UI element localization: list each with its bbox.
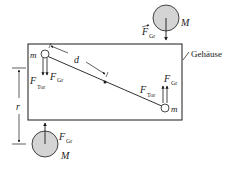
svg-text:F: F [163, 73, 171, 84]
small-mass-right-label: m [171, 104, 178, 114]
svg-text:Tor: Tor [37, 84, 45, 90]
distance-d-label: d [74, 54, 80, 65]
svg-text:F: F [29, 75, 37, 86]
force-tor-left-label: F Tor [29, 75, 45, 90]
svg-text:Tor: Tor [147, 92, 155, 98]
svg-text:F: F [58, 131, 66, 142]
force-gr-top-label: F Gr [141, 25, 155, 39]
housing-leader [183, 52, 189, 60]
svg-text:Gr: Gr [66, 138, 72, 144]
svg-text:F: F [141, 26, 149, 37]
force-tor-right-label: F Tor [139, 84, 155, 98]
distance-d-arrow [51, 46, 68, 53]
small-mass-left [41, 50, 49, 58]
svg-text:Gr: Gr [149, 33, 155, 39]
distance-r-label: r [16, 101, 20, 112]
svg-text:Gr: Gr [171, 80, 177, 86]
housing-label: Gehäuse [191, 49, 222, 59]
svg-text:F: F [49, 71, 57, 82]
small-mass-right [161, 104, 169, 112]
small-mass-left-label: m [30, 50, 37, 60]
svg-text:Gr: Gr [57, 77, 63, 83]
force-gr-right-label: F Gr [163, 73, 177, 86]
svg-text:F: F [139, 84, 147, 95]
cavendish-diagram: Gehäuse M F Gr m m d F Tor F Gr F Tor F … [0, 0, 238, 170]
large-mass-top-label: M [180, 17, 190, 28]
large-mass-bottom-label: M [60, 150, 70, 161]
force-gr-left-label: F Gr [49, 71, 63, 83]
rod-center-dot [104, 81, 107, 84]
force-gr-bottom-label: F Gr [58, 131, 72, 144]
